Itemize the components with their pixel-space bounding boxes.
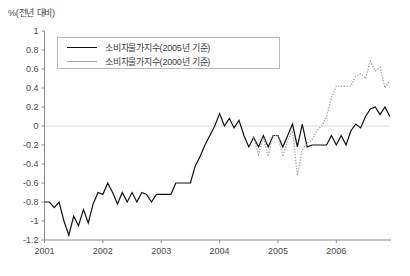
chart-legend: 소비자물가지수(2005년 기준) 소비자물가지수(2000년 기준)	[57, 37, 280, 69]
svg-text:-0.8: -0.8	[23, 197, 39, 207]
svg-text:0.4: 0.4	[26, 83, 39, 93]
svg-text:-1.2: -1.2	[23, 235, 39, 245]
svg-text:-1: -1	[30, 216, 38, 226]
svg-text:0.2: 0.2	[26, 102, 39, 112]
y-axis-ticks: 10.80.60.40.20-0.2-0.4-0.6-0.8-1-1.2	[23, 26, 45, 245]
legend-entry-cpi-2000: 소비자물가지수(2000년 기준)	[58, 54, 279, 68]
svg-text:2004: 2004	[210, 246, 230, 256]
svg-text:0.6: 0.6	[26, 64, 39, 74]
svg-text:2006: 2006	[326, 246, 346, 256]
svg-text:-0.2: -0.2	[23, 140, 39, 150]
legend-swatch-icon-2005	[67, 47, 97, 48]
chart-container: %(전년 대비) 10.80.60.40.20-0.2-0.4-0.6-0.8-…	[0, 0, 410, 276]
svg-text:1: 1	[33, 26, 38, 36]
svg-text:-0.6: -0.6	[23, 178, 39, 188]
series-lines	[45, 61, 390, 235]
svg-text:0: 0	[33, 121, 38, 131]
svg-text:2003: 2003	[151, 246, 171, 256]
legend-label-2005: 소비자물가지수(2005년 기준)	[105, 41, 210, 54]
svg-text:2005: 2005	[268, 246, 288, 256]
svg-text:-0.4: -0.4	[23, 159, 39, 169]
x-axis-ticks: 200120022003200420052006	[34, 240, 346, 256]
svg-text:0.8: 0.8	[26, 45, 39, 55]
series-line-1	[254, 61, 390, 175]
legend-entry-cpi-2005: 소비자물가지수(2005년 기준)	[58, 40, 279, 54]
svg-text:2001: 2001	[34, 246, 54, 256]
legend-swatch-icon-2000	[67, 61, 97, 62]
svg-text:2002: 2002	[93, 246, 113, 256]
legend-label-2000: 소비자물가지수(2000년 기준)	[105, 55, 210, 68]
